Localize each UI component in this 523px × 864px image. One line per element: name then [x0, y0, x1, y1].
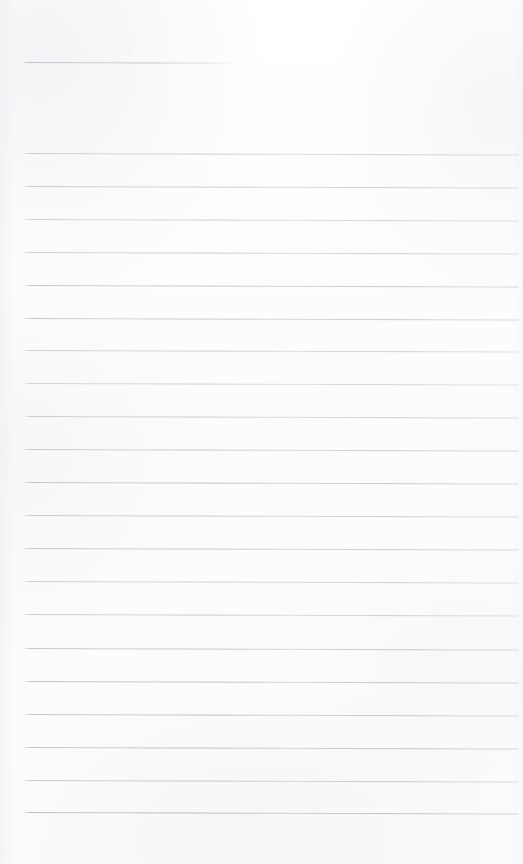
paper-texture — [0, 0, 523, 864]
rule-line — [23, 186, 518, 189]
rule-line — [23, 219, 518, 222]
rule-line — [23, 714, 518, 717]
rule-line — [23, 648, 518, 651]
rule-line — [23, 285, 518, 288]
rule-line — [23, 812, 518, 815]
rule-line — [23, 515, 518, 518]
partial-rule-line — [23, 62, 237, 64]
rule-line — [23, 252, 518, 255]
scan-edge-shading — [0, 0, 523, 864]
rule-line — [23, 416, 518, 419]
rule-line — [23, 449, 518, 452]
rule-line — [23, 681, 518, 684]
rule-line — [23, 153, 518, 156]
rule-line — [23, 614, 518, 617]
ruled-lines-layer — [0, 0, 523, 864]
rule-line — [23, 350, 518, 353]
rule-line — [23, 383, 518, 386]
scanned-page — [0, 0, 523, 864]
rule-line — [23, 318, 518, 321]
rule-line — [23, 780, 518, 783]
rule-line — [23, 747, 518, 750]
rule-line — [23, 581, 518, 584]
rule-line — [23, 482, 518, 485]
rule-line — [23, 548, 518, 551]
